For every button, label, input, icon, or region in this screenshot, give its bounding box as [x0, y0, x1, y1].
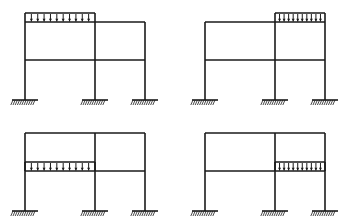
down-arrow-icon — [314, 19, 317, 22]
fixed-support — [191, 100, 218, 105]
fixed-support — [11, 211, 38, 216]
down-arrow-icon — [30, 168, 33, 171]
down-arrow-icon — [301, 168, 304, 171]
support-hatch-icon — [81, 100, 83, 105]
down-arrow-icon — [305, 168, 308, 171]
fixed-support — [11, 100, 38, 105]
down-arrow-icon — [55, 168, 58, 171]
panel-bottom-left — [0, 111, 180, 222]
down-arrow-icon — [310, 19, 313, 22]
down-arrow-icon — [62, 168, 65, 171]
down-arrow-icon — [36, 19, 39, 22]
down-arrow-icon — [87, 19, 90, 22]
down-arrow-icon — [278, 19, 281, 22]
support-hatch-icon — [11, 211, 13, 216]
down-arrow-icon — [68, 168, 71, 171]
down-arrow-icon — [314, 168, 317, 171]
down-arrow-icon — [287, 168, 290, 171]
down-arrow-icon — [36, 168, 39, 171]
down-arrow-icon — [319, 168, 322, 171]
fixed-support — [191, 211, 218, 216]
support-hatch-icon — [131, 211, 133, 216]
down-arrow-icon — [319, 19, 322, 22]
support-hatch-icon — [81, 211, 83, 216]
support-hatch-icon — [11, 100, 13, 105]
panel-top-right — [180, 0, 360, 111]
down-arrow-icon — [74, 168, 77, 171]
fixed-support — [131, 211, 158, 216]
down-arrow-icon — [283, 19, 286, 22]
down-arrow-icon — [43, 168, 46, 171]
down-arrow-icon — [296, 168, 299, 171]
panel-bottom-left-canvas — [0, 111, 180, 222]
distributed-load — [275, 13, 325, 22]
distributed-load — [25, 13, 95, 22]
fixed-support — [81, 211, 108, 216]
down-arrow-icon — [292, 168, 295, 171]
down-arrow-icon — [296, 19, 299, 22]
down-arrow-icon — [292, 19, 295, 22]
down-arrow-icon — [283, 168, 286, 171]
down-arrow-icon — [68, 19, 71, 22]
fixed-support — [311, 100, 338, 105]
down-arrow-icon — [49, 168, 52, 171]
down-arrow-icon — [74, 19, 77, 22]
panel-bottom-right — [180, 111, 360, 222]
fixed-support — [131, 100, 158, 105]
down-arrow-icon — [87, 168, 90, 171]
down-arrow-icon — [301, 19, 304, 22]
down-arrow-icon — [287, 19, 290, 22]
support-hatch-icon — [191, 211, 193, 216]
support-hatch-icon — [311, 100, 313, 105]
panel-bottom-right-canvas — [180, 111, 360, 222]
distributed-load — [275, 162, 325, 171]
frame-load-cases-figure — [0, 0, 360, 222]
down-arrow-icon — [55, 19, 58, 22]
fixed-support — [81, 100, 108, 105]
support-hatch-icon — [261, 100, 263, 105]
down-arrow-icon — [62, 19, 65, 22]
down-arrow-icon — [30, 19, 33, 22]
down-arrow-icon — [49, 19, 52, 22]
panel-top-left-canvas — [0, 0, 180, 111]
down-arrow-icon — [43, 19, 46, 22]
panel-top-right-canvas — [180, 0, 360, 111]
support-hatch-icon — [131, 100, 133, 105]
fixed-support — [261, 211, 288, 216]
distributed-load — [25, 162, 95, 171]
down-arrow-icon — [81, 168, 84, 171]
fixed-support — [261, 100, 288, 105]
down-arrow-icon — [81, 19, 84, 22]
panel-top-left — [0, 0, 180, 111]
down-arrow-icon — [278, 168, 281, 171]
support-hatch-icon — [311, 211, 313, 216]
down-arrow-icon — [305, 19, 308, 22]
support-hatch-icon — [261, 211, 263, 216]
down-arrow-icon — [310, 168, 313, 171]
support-hatch-icon — [191, 100, 193, 105]
fixed-support — [311, 211, 338, 216]
